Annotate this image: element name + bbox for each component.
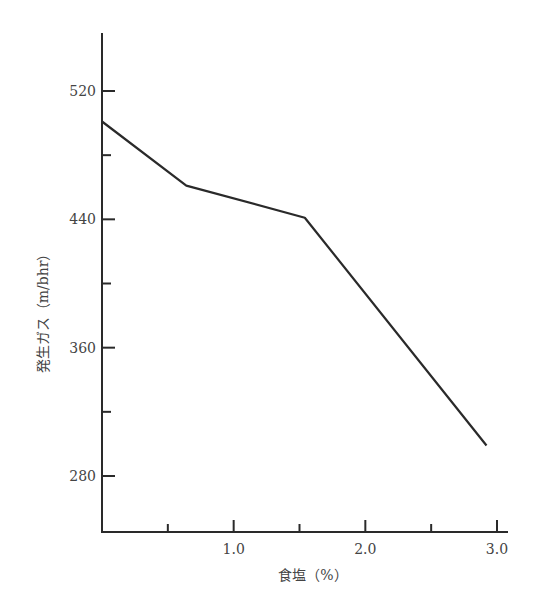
y-tick-label: 280 [69,468,96,484]
ticks [102,91,497,532]
tick-labels: 2803604405201.02.03.0 [69,83,508,557]
y-axis-title: 発生ガス（m/bhr） [35,247,51,374]
line-chart: 2803604405201.02.03.0 食塩（%） 発生ガス（m/bhr） [0,0,538,608]
data-line [102,122,487,446]
series [102,122,487,446]
x-tick-label: 2.0 [354,541,376,557]
x-axis-title: 食塩（%） [278,567,347,583]
x-tick-label: 3.0 [486,541,508,557]
axes [101,33,508,532]
x-tick-label: 1.0 [223,541,245,557]
y-tick-label: 440 [69,211,96,227]
y-tick-label: 520 [69,83,96,99]
y-tick-label: 360 [69,340,96,356]
